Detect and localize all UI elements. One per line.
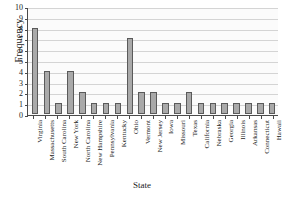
x-tick-mark [189,116,190,119]
bar[interactable] [79,92,86,114]
bar[interactable] [67,71,74,114]
bar-slot [112,8,124,114]
bar-slot [124,8,136,114]
bar[interactable] [186,92,193,114]
y-tick-label: 4 [19,69,23,77]
bar[interactable] [127,38,134,114]
x-label-slot: Illinois [231,120,243,172]
bar[interactable] [32,28,39,114]
bar[interactable] [269,103,276,114]
x-tick-slot [28,116,40,119]
x-tick-slot [100,116,112,119]
bar[interactable] [103,103,110,114]
y-tick-label: 8 [19,26,23,34]
plot-area: 012345678910 [27,8,278,116]
x-tick-slot [159,116,171,119]
x-tick-mark [165,116,166,119]
x-tick-slot [88,116,100,119]
bar[interactable] [91,103,98,114]
bar-slot [88,8,100,114]
bar-slot [76,8,88,114]
x-tick-slot [267,116,279,119]
x-label-slot: Massachusetts [40,120,52,172]
x-tick-mark [141,116,142,119]
x-label-slot: South Carolina [52,120,64,172]
bar[interactable] [245,103,252,114]
y-tick-mark [25,62,28,63]
x-tick-slot [243,116,255,119]
x-tick-slot [183,116,195,119]
y-tick-mark [25,105,28,106]
bar[interactable] [257,103,264,114]
x-tick-mark [105,116,106,119]
y-tick-label: 3 [19,80,23,88]
bar[interactable] [138,92,145,114]
x-tick-label: Hawaii [276,120,283,140]
y-tick-label: 9 [19,15,23,23]
x-label-slot: Ohio [124,120,136,172]
x-label-slot: North Carolina [76,120,88,172]
x-tick-slot [255,116,267,119]
y-tick-mark [25,94,28,95]
bar[interactable] [210,103,217,114]
y-tick-mark [25,84,28,85]
bar[interactable] [55,103,62,114]
bar[interactable] [174,103,181,114]
bar-chart-figure: Frequency 012345678910 VirginiaMassachus… [0,0,284,199]
y-tick-mark [25,40,28,41]
x-tick-mark [33,116,34,119]
x-tick-slot [148,116,160,119]
x-tick-mark [129,116,130,119]
x-label-slot: Nebraska [207,120,219,172]
bar[interactable] [198,103,205,114]
x-label-slot: Vermont [136,120,148,172]
bar[interactable] [221,103,228,114]
x-tick-mark [177,116,178,119]
bar-slot [219,8,231,114]
bar-slot [207,8,219,114]
x-tick-slot [136,116,148,119]
y-tick-mark [25,51,28,52]
x-tick-slot [64,116,76,119]
bar[interactable] [233,103,240,114]
x-tick-slot [40,116,52,119]
x-label-slot: New Jersey [148,120,160,172]
x-tick-slot [219,116,231,119]
x-label-slot: Pennsylvania [100,120,112,172]
x-tick-mark [273,116,274,119]
x-tick-mark [213,116,214,119]
bar-slot [136,8,148,114]
x-label-slot: Hawaii [267,120,279,172]
x-label-slot: Kentucky [112,120,124,172]
bar-slot [41,8,53,114]
x-tick-mark [249,116,250,119]
x-tick-mark [237,116,238,119]
x-tick-slot [76,116,88,119]
bar-slot [242,8,254,114]
x-tick-slot [112,116,124,119]
x-label-slot: Arkansas [243,120,255,172]
y-tick-label: 0 [19,112,23,120]
bar-slot [29,8,41,114]
bar-slot [171,8,183,114]
bar-series [29,8,278,114]
x-tick-slot [207,116,219,119]
bar[interactable] [115,103,122,114]
x-tick-mark [153,116,154,119]
y-tick-label: 5 [19,58,23,66]
x-tick-mark [81,116,82,119]
bar[interactable] [44,71,51,114]
x-label-slot: Missouri [171,120,183,172]
x-tick-mark [57,116,58,119]
x-label-slot: Virginia [28,120,40,172]
x-tick-mark [93,116,94,119]
y-tick-label: 2 [19,90,23,98]
y-tick-mark [25,73,28,74]
bar-slot [231,8,243,114]
bar[interactable] [162,103,169,114]
x-tick-slot [52,116,64,119]
x-tick-slot [231,116,243,119]
bar[interactable] [150,92,157,114]
x-label-slot: New York [64,120,76,172]
x-tick-mark [117,116,118,119]
